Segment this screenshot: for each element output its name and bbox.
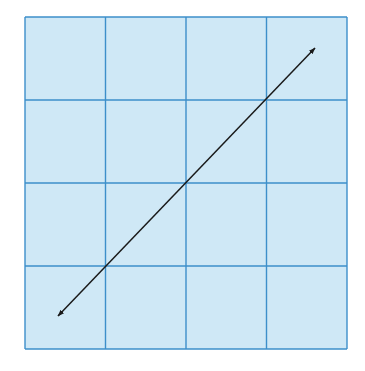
diagram-stage <box>0 0 365 371</box>
grid-diagram <box>0 0 365 371</box>
